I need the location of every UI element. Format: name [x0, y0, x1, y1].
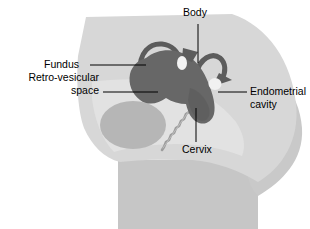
label-retro-vesicular-space: Retro-vesicular space	[11, 71, 99, 96]
label-endometrial-cavity-line1: Endometrial	[250, 85, 306, 98]
label-body-text: Body	[183, 6, 207, 18]
label-body: Body	[183, 6, 207, 19]
label-cervix-text: Cervix	[182, 143, 212, 155]
anatomy-illustration	[0, 0, 310, 229]
bladder	[100, 101, 166, 149]
label-fundus-text: Fundus	[44, 58, 79, 70]
left-ovary	[177, 56, 187, 70]
right-ovary	[209, 78, 222, 90]
label-fundus: Fundus	[44, 58, 79, 71]
label-retro-vesicular-space-line2: space	[11, 84, 99, 97]
label-retro-vesicular-space-line1: Retro-vesicular	[11, 71, 99, 84]
label-endometrial-cavity-line2: cavity	[250, 98, 306, 111]
anatomy-figure: Body Fundus Retro-vesicular space Endome…	[0, 0, 310, 229]
label-endometrial-cavity: Endometrial cavity	[250, 85, 306, 110]
label-cervix: Cervix	[182, 143, 212, 156]
